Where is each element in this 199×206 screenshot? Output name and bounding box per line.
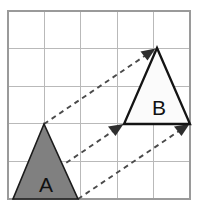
geometry-figure: A B <box>0 0 199 206</box>
geometry-canvas: A B <box>0 0 199 206</box>
translation-arrow-right-base-line <box>78 127 185 199</box>
triangle-a-label: A <box>39 173 53 196</box>
translation-arrow-left-base-head <box>108 124 124 136</box>
translation-arrow-right-base-head <box>174 124 190 136</box>
triangle-b-label: B <box>152 96 166 119</box>
